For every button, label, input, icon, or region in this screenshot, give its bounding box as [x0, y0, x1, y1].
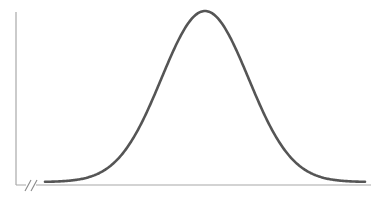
bell-curve-chart: [0, 0, 386, 200]
normal-distribution-curve: [45, 11, 365, 182]
axis-break-icon: [25, 180, 37, 191]
